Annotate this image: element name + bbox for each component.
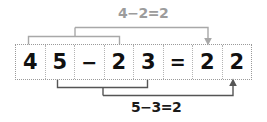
tens-column-annotation-label: 4−2=2 bbox=[118, 6, 168, 20]
cell-equals-sign: = bbox=[164, 45, 194, 79]
cell-result-units: 2 bbox=[223, 45, 252, 79]
tens-column-bracket bbox=[29, 28, 212, 46]
units-column-bracket bbox=[58, 79, 237, 96]
equation-strip: 4 5 − 2 3 = 2 2 bbox=[15, 44, 252, 80]
subtraction-diagram: 4−2=2 4 5 − 2 3 bbox=[0, 0, 267, 122]
cell-minuend-units: 5 bbox=[46, 45, 76, 79]
cell-subtrahend-units: 3 bbox=[134, 45, 164, 79]
cell-result-tens: 2 bbox=[193, 45, 223, 79]
cell-minuend-tens: 4 bbox=[16, 45, 46, 79]
cell-minus-sign: − bbox=[75, 45, 105, 79]
cell-subtrahend-tens: 2 bbox=[105, 45, 135, 79]
units-column-annotation-label: 5−3=2 bbox=[131, 100, 181, 114]
